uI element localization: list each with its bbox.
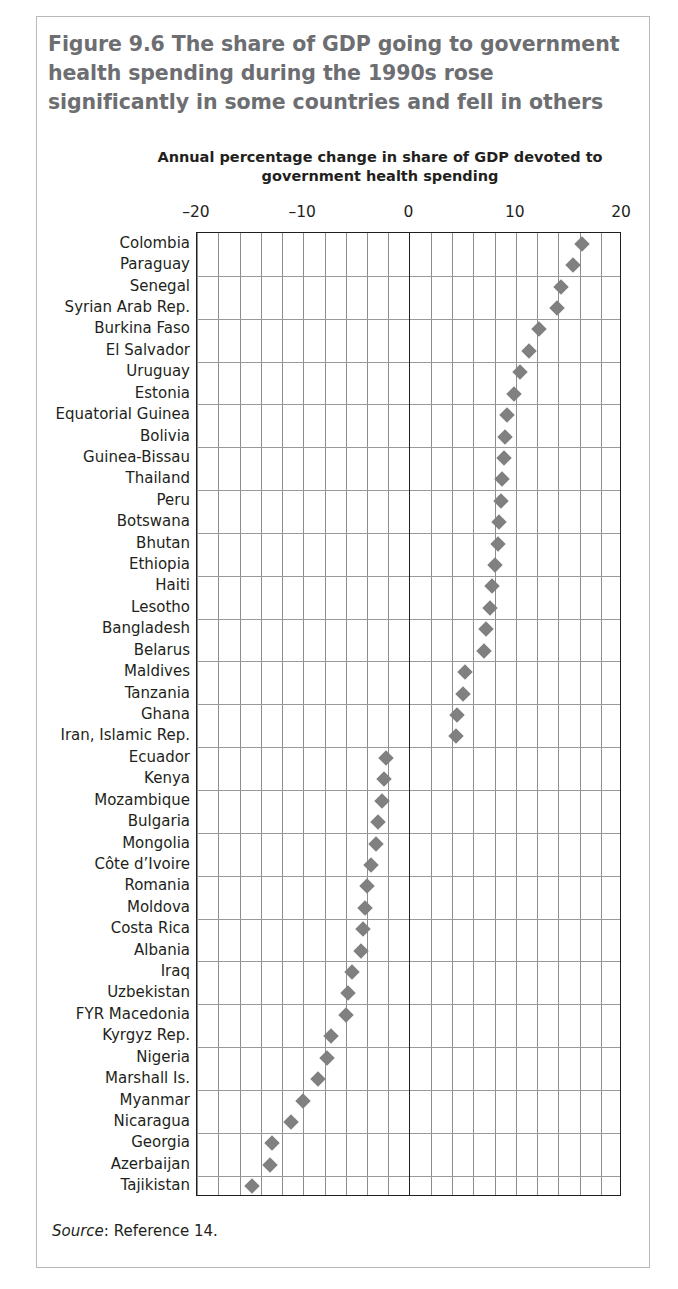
category-label: Ethiopia xyxy=(0,557,190,572)
data-point-marker xyxy=(482,600,498,616)
data-point-marker xyxy=(338,1007,354,1023)
data-point-marker xyxy=(497,429,513,445)
category-label: Thailand xyxy=(0,471,190,486)
data-point-marker xyxy=(531,322,547,338)
source-text: : Reference 14. xyxy=(104,1222,218,1240)
category-label: Moldova xyxy=(0,899,190,914)
x-tick-label: –20 xyxy=(182,203,209,221)
plot-wrapper: –20–1001020 ColombiaParaguaySenegalSyria… xyxy=(0,0,678,1289)
category-label: Iran, Islamic Rep. xyxy=(0,728,190,743)
data-point-marker xyxy=(476,643,492,659)
category-label: Burkina Faso xyxy=(0,321,190,336)
category-label: Ecuador xyxy=(0,749,190,764)
vertical-gridline xyxy=(388,233,389,1195)
category-label: Lesotho xyxy=(0,599,190,614)
data-point-marker xyxy=(340,986,356,1002)
vertical-gridline xyxy=(197,233,198,1195)
data-point-marker xyxy=(283,1114,299,1130)
data-point-marker xyxy=(491,514,507,530)
category-label: Paraguay xyxy=(0,257,190,272)
data-point-marker xyxy=(490,536,506,552)
category-label: Tanzania xyxy=(0,685,190,700)
vertical-gridline xyxy=(473,233,474,1195)
category-label: Iraq xyxy=(0,964,190,979)
vertical-gridline xyxy=(303,233,304,1195)
category-label: Uzbekistan xyxy=(0,985,190,1000)
vertical-gridline xyxy=(601,233,602,1195)
data-point-marker xyxy=(554,279,570,295)
data-point-marker xyxy=(448,729,464,745)
source-label: Source xyxy=(52,1222,104,1240)
category-label: Nicaragua xyxy=(0,1114,190,1129)
category-label: El Salvador xyxy=(0,342,190,357)
category-label: Syrian Arab Rep. xyxy=(0,299,190,314)
data-point-marker xyxy=(485,579,501,595)
vertical-gridline xyxy=(558,233,559,1195)
data-point-marker xyxy=(319,1050,335,1066)
category-label: Tajikistan xyxy=(0,1178,190,1193)
category-label: FYR Macedonia xyxy=(0,1006,190,1021)
category-label: Botswana xyxy=(0,514,190,529)
category-label: Myanmar xyxy=(0,1092,190,1107)
category-label: Georgia xyxy=(0,1135,190,1150)
category-label: Romania xyxy=(0,878,190,893)
category-label: Azerbaijan xyxy=(0,1156,190,1171)
vertical-gridline xyxy=(537,233,538,1195)
data-point-marker xyxy=(263,1157,279,1173)
category-label: Ghana xyxy=(0,707,190,722)
plot-area xyxy=(196,232,621,1196)
data-point-marker xyxy=(478,622,494,638)
category-label: Marshall Is. xyxy=(0,1071,190,1086)
category-label: Nigeria xyxy=(0,1049,190,1064)
category-label: Bangladesh xyxy=(0,621,190,636)
category-label: Senegal xyxy=(0,278,190,293)
data-point-marker xyxy=(487,557,503,573)
x-tick-label: 0 xyxy=(404,203,414,221)
category-label: Haiti xyxy=(0,578,190,593)
x-axis-tick-row: –20–1001020 xyxy=(196,203,621,225)
data-point-marker xyxy=(494,472,510,488)
data-point-marker xyxy=(512,364,528,380)
data-point-marker xyxy=(455,686,471,702)
data-point-marker xyxy=(574,236,590,252)
category-label: Mozambique xyxy=(0,792,190,807)
data-point-marker xyxy=(363,857,379,873)
x-tick-label: 20 xyxy=(611,203,631,221)
vertical-gridline xyxy=(580,233,581,1195)
vertical-gridline xyxy=(495,233,496,1195)
zero-axis-line xyxy=(409,233,411,1195)
figure-page: Figure 9.6 The share of GDP going to gov… xyxy=(0,0,678,1289)
category-label: Kenya xyxy=(0,771,190,786)
category-label: Bhutan xyxy=(0,535,190,550)
data-point-marker xyxy=(355,921,371,937)
data-point-marker xyxy=(295,1093,311,1109)
category-label: Bulgaria xyxy=(0,814,190,829)
category-label-column: ColombiaParaguaySenegalSyrian Arab Rep.B… xyxy=(0,232,190,1196)
data-point-marker xyxy=(378,750,394,766)
data-point-marker xyxy=(549,300,565,316)
category-label: Maldives xyxy=(0,664,190,679)
data-point-marker xyxy=(506,386,522,402)
category-label: Costa Rica xyxy=(0,921,190,936)
data-point-marker xyxy=(521,343,537,359)
data-point-marker xyxy=(370,814,386,830)
data-point-marker xyxy=(359,879,375,895)
data-point-marker xyxy=(244,1179,260,1195)
category-label: Belarus xyxy=(0,642,190,657)
data-point-marker xyxy=(457,664,473,680)
vertical-gridline xyxy=(218,233,219,1195)
category-label: Estonia xyxy=(0,385,190,400)
vertical-gridline xyxy=(346,233,347,1195)
category-label: Côte d’Ivoire xyxy=(0,856,190,871)
x-tick-label: 10 xyxy=(505,203,525,221)
x-tick-label: –10 xyxy=(289,203,316,221)
category-label: Bolivia xyxy=(0,428,190,443)
category-label: Equatorial Guinea xyxy=(0,407,190,422)
category-label: Albania xyxy=(0,942,190,957)
category-label: Mongolia xyxy=(0,835,190,850)
source-note: Source: Reference 14. xyxy=(52,1222,218,1240)
category-label: Guinea-Bissau xyxy=(0,449,190,464)
category-label: Kyrgyz Rep. xyxy=(0,1028,190,1043)
data-point-marker xyxy=(265,1136,281,1152)
data-point-marker xyxy=(368,836,384,852)
